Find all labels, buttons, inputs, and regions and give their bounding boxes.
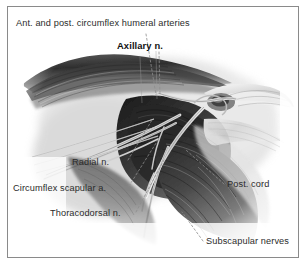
label-circumflex-humeral-arteries: Ant. and post. circumflex humeral arteri… (16, 18, 190, 29)
label-subscapular-nerves: Subscapular nerves (206, 236, 289, 247)
figure-root: Ant. and post. circumflex humeral arteri… (0, 0, 308, 270)
label-circumflex-scapular-artery: Circumflex scapular a. (13, 183, 106, 194)
label-axillary-nerve: Axillary n. (117, 40, 163, 51)
label-posterior-cord: Post. cord (227, 179, 269, 190)
label-thoracodorsal-nerve: Thoracodorsal n. (50, 208, 121, 219)
label-radial-nerve: Radial n. (72, 157, 109, 168)
